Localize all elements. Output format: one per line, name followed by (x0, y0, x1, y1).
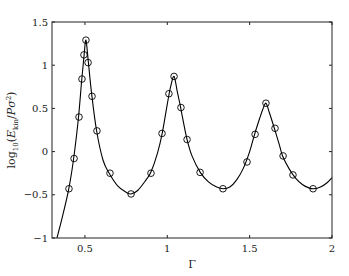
y-tick-label: 0 (42, 146, 48, 157)
y-tick-label: 0.5 (32, 103, 48, 114)
svg-text:log10(Ekin/Pσ2): log10(Ekin/Pσ2) (5, 92, 20, 169)
data-markers (66, 37, 317, 197)
x-tick-label: 1.5 (242, 243, 258, 254)
ylabel-log-base: 10 (12, 142, 20, 151)
ylabel-paren-close: ) (5, 92, 18, 96)
curve-path (57, 40, 332, 238)
ylabel-E: E (5, 130, 18, 139)
y-tick-label: 1.5 (32, 17, 48, 28)
ylabel-log: log (5, 151, 18, 168)
ylabel-E-sub: kin (12, 119, 20, 130)
x-axis-label: Γ (188, 258, 196, 271)
x-tick-label: 1 (164, 243, 170, 254)
chart: 0.511.52 −1−0.500.511.5 Γ log10(Ekin/Pσ2… (0, 0, 349, 276)
model-curve (57, 40, 332, 238)
y-tick-label: 1 (42, 60, 48, 71)
y-tick-label: −0.5 (24, 189, 48, 200)
y-axis-ticks: −1−0.500.511.5 (24, 17, 332, 244)
x-axis-ticks: 0.511.52 (77, 22, 335, 254)
y-tick-label: −1 (33, 233, 48, 244)
y-axis-label: log10(Ekin/Pσ2) (5, 92, 20, 169)
cropped-header-text (0, 0, 349, 6)
x-tick-label: 0.5 (77, 243, 93, 254)
x-tick-label: 2 (329, 243, 335, 254)
